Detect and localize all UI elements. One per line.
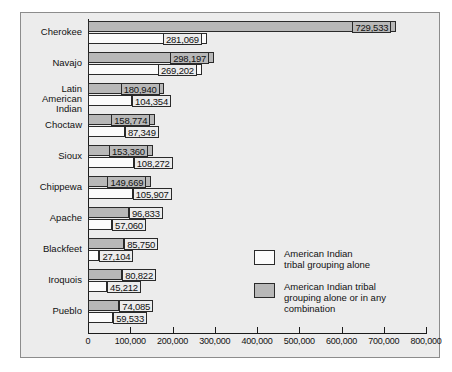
bar-value-label: 27,104 — [99, 250, 133, 262]
bar-value-label: 74,085 — [119, 300, 153, 312]
category-label: Apache — [50, 213, 82, 223]
bar-alone — [88, 219, 112, 230]
bar-combo — [88, 300, 119, 311]
bar-value-label: 80,822 — [122, 269, 156, 281]
category-label: Latin American Indian — [21, 84, 82, 114]
bar-alone — [88, 126, 125, 137]
bar-combo — [88, 238, 124, 249]
x-tick-label: 0 — [86, 336, 91, 346]
bar-value-label: 59,533 — [113, 312, 147, 324]
x-tick — [257, 327, 258, 334]
category-label: Sioux — [58, 151, 82, 161]
bar-alone — [88, 188, 133, 199]
x-tick — [88, 327, 89, 334]
legend-swatch-combo — [254, 283, 275, 298]
legend-item: American Indian tribal grouping alone — [254, 248, 434, 270]
bar-alone — [88, 312, 113, 323]
category-label: Navajo — [52, 58, 82, 68]
bar-value-label: 729,533 — [352, 21, 391, 33]
legend-swatch-alone — [254, 250, 275, 265]
x-tick-label: 600,000 — [326, 336, 357, 346]
bar-value-label: 153,360 — [109, 145, 148, 157]
category-label: Blackfeet — [43, 244, 82, 254]
x-tick — [173, 327, 174, 334]
bar-value-label: 298,197 — [170, 52, 209, 64]
bar-value-label: 96,833 — [129, 207, 163, 219]
category-label: Chippewa — [40, 182, 82, 192]
category-label: Cherokee — [41, 27, 82, 37]
bar-alone — [88, 95, 132, 106]
x-tick — [426, 327, 427, 334]
x-tick — [342, 327, 343, 334]
x-tick — [299, 327, 300, 334]
x-tick-label: 800,000 — [410, 336, 441, 346]
x-tick-label: 100,000 — [115, 336, 146, 346]
bar-value-label: 158,774 — [111, 114, 150, 126]
legend-label: American Indian tribal grouping alone or… — [284, 281, 434, 314]
bar-value-label: 281,069 — [163, 33, 202, 45]
bar-value-label: 45,212 — [107, 281, 141, 293]
bar-value-label: 57,060 — [112, 219, 146, 231]
chart-legend: American Indian tribal grouping aloneAme… — [254, 248, 434, 325]
bar-value-label: 85,750 — [124, 238, 158, 250]
bar-value-label: 149,669 — [107, 176, 146, 188]
bar-combo — [88, 21, 396, 32]
bar-combo — [88, 269, 122, 280]
x-tick-label: 700,000 — [368, 336, 399, 346]
category-label: Pueblo — [52, 306, 82, 316]
x-tick-label: 200,000 — [157, 336, 188, 346]
chart-figure: 0100,000200,000300,000400,000500,000600,… — [20, 12, 440, 358]
category-label: Choctaw — [45, 120, 82, 130]
bar-value-label: 108,272 — [134, 157, 173, 169]
bar-value-label: 180,940 — [121, 83, 160, 95]
category-label: Iroquois — [48, 275, 82, 285]
x-tick — [384, 327, 385, 334]
bar-alone — [88, 281, 107, 292]
bar-value-label: 105,907 — [133, 188, 172, 200]
bar-value-label: 87,349 — [125, 126, 159, 138]
bar-value-label: 104,354 — [132, 95, 171, 107]
x-tick-label: 500,000 — [284, 336, 315, 346]
legend-item: American Indian tribal grouping alone or… — [254, 281, 434, 314]
x-tick — [215, 327, 216, 334]
x-tick-label: 400,000 — [241, 336, 272, 346]
x-tick-label: 300,000 — [199, 336, 230, 346]
bar-value-label: 269,202 — [158, 64, 197, 76]
x-tick — [130, 327, 131, 334]
bar-combo — [88, 207, 129, 218]
legend-label: American Indian tribal grouping alone — [284, 248, 434, 270]
bar-alone — [88, 157, 134, 168]
bar-alone — [88, 250, 99, 261]
